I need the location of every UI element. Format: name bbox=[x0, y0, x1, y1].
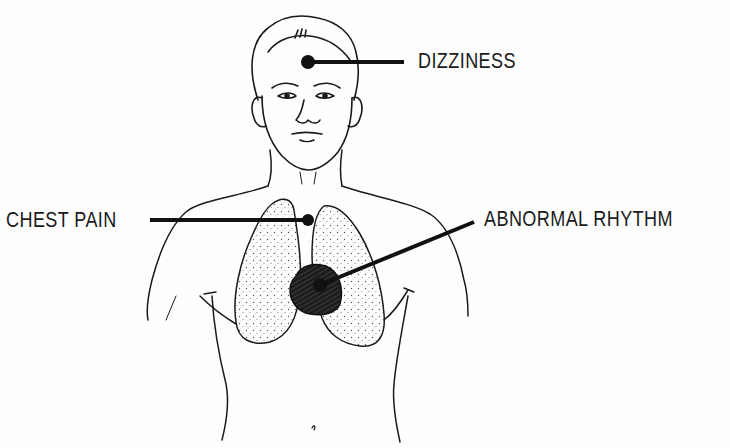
label-dizziness: DIZZINESS bbox=[418, 50, 516, 72]
head bbox=[252, 16, 362, 170]
symptom-diagram: DIZZINESS CHEST PAIN ABNORMAL RHYTHM bbox=[0, 0, 730, 448]
label-chest-pain: CHEST PAIN bbox=[6, 209, 117, 231]
label-abnormal-rhythm: ABNORMAL RHYTHM bbox=[484, 208, 673, 230]
callout-dizziness bbox=[301, 55, 404, 69]
